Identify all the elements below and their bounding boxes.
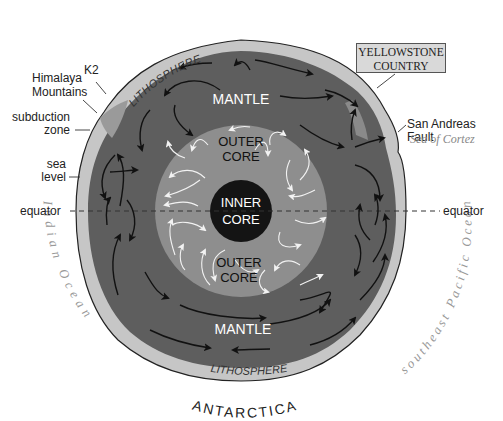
antarctica-label: ANTARCTICA	[191, 397, 300, 421]
k2-label: K2	[84, 64, 99, 77]
inner-core-label-line2: CORE	[222, 212, 260, 227]
equator-left-label: equator	[20, 205, 61, 218]
outer-core-bottom-label-line1: OUTER	[216, 255, 262, 270]
yellowstone-country-box: YELLOWSTONE COUNTRY	[356, 43, 446, 73]
outer-core-bottom-label-line2: CORE	[220, 270, 258, 285]
yellowstone-label-line1: YELLOWSTONE	[357, 45, 445, 59]
southeast-pacific-ocean-label: southeast Pacific Ocean	[397, 198, 475, 377]
mantle-top-label: MANTLE	[213, 91, 270, 107]
arctic-ocean-label: Arctic Ocean	[192, 0, 297, 1]
mantle-bottom-label: MANTLE	[215, 321, 272, 337]
outer-core-top-label-line1: OUTER	[218, 134, 264, 149]
yellowstone-label-line2: COUNTRY	[357, 59, 445, 73]
subduction-zone-label-line2: zone	[0, 124, 70, 137]
sea-of-cortez-label: Sea of Cortez	[410, 132, 475, 147]
outer-core-top-label-line2: CORE	[222, 149, 260, 164]
equator-right-label: equator	[443, 205, 484, 218]
sea-level-label-line2: level	[0, 171, 66, 184]
himalaya-label-line2: Mountains	[32, 86, 87, 99]
himalaya-label-line1: Himalaya	[32, 72, 82, 85]
earth-cross-section-diagram: Arctic Ocean Indian Ocean southeast Paci…	[0, 0, 503, 421]
inner-core-label-line1: INNER	[221, 195, 261, 210]
